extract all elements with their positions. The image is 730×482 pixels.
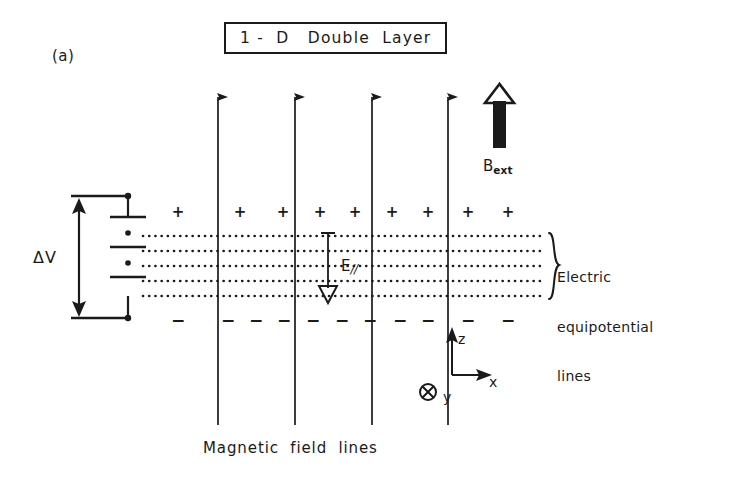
axis-x-label: x — [489, 374, 497, 391]
positive-charge-sign: + — [502, 203, 515, 221]
b-ext-subscript: ext — [493, 164, 513, 176]
coordinate-axes — [420, 327, 492, 400]
positive-charge-sign: + — [462, 203, 475, 221]
figure-title: 1 - D Double Layer — [240, 29, 431, 47]
negative-charge-sign: − — [335, 310, 349, 330]
positive-charge-sign: + — [172, 203, 185, 221]
negative-charge-sign: − — [363, 310, 377, 330]
figure-caption: Magnetic field lines — [203, 440, 378, 458]
figure-1d-double-layer: 1 - D Double Layer (a) Bext ΔV E// Elect… — [0, 0, 730, 482]
positive-charge-sign: + — [314, 203, 327, 221]
e-parallel-label: E// — [341, 258, 358, 277]
negative-charge-sign: − — [501, 310, 515, 330]
positive-charge-sign: + — [422, 203, 435, 221]
b-ext-symbol: B — [483, 157, 493, 175]
delta-v-label: ΔV — [33, 249, 57, 268]
negative-charge-sign: − — [306, 310, 320, 330]
equipotential-annotation-line-3: lines — [557, 368, 653, 385]
delta-v-arrow — [72, 198, 86, 317]
negative-charge-sign: − — [421, 310, 435, 330]
negative-charge-sign: − — [171, 310, 185, 330]
axis-y-into-page-icon — [420, 384, 436, 400]
positive-charge-sign: + — [349, 203, 362, 221]
e-parallel-subscript: // — [350, 262, 357, 276]
equipotential-annotation: Electric equipotential lines — [557, 236, 653, 418]
magnetic-field-lines — [218, 97, 448, 425]
title-box: 1 - D Double Layer — [224, 22, 447, 54]
negative-charge-sign: − — [277, 310, 291, 330]
negative-charge-sign: − — [393, 310, 407, 330]
b-ext-arrow — [485, 84, 514, 148]
positive-charge-sign: + — [277, 203, 290, 221]
equipotential-annotation-line-2: equipotential — [557, 319, 653, 336]
axis-z-label: z — [458, 331, 465, 348]
positive-charge-sign: + — [234, 203, 247, 221]
positive-charge-sign: + — [386, 203, 399, 221]
axis-y-label: y — [443, 389, 451, 406]
negative-charge-sign: − — [221, 310, 235, 330]
b-ext-label: Bext — [483, 158, 513, 176]
e-parallel-arrow — [319, 232, 337, 303]
negative-charge-sign: − — [249, 310, 263, 330]
equipotential-annotation-line-1: Electric — [557, 269, 653, 286]
negative-charge-sign: − — [461, 310, 475, 330]
panel-label: (a) — [52, 48, 74, 66]
